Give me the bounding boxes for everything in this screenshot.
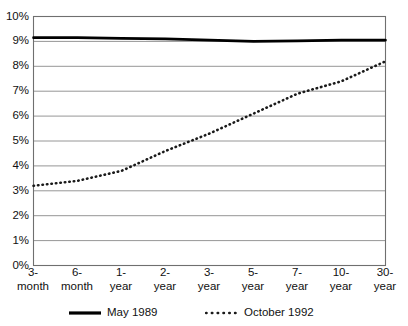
series-line-october-1992 — [34, 61, 386, 186]
x-axis-tick-label: 6- month — [61, 266, 93, 293]
x-axis-tick-label: 30- year — [374, 266, 396, 293]
legend-label-october-1992: October 1992 — [244, 306, 314, 319]
legend-item-may-1989: May 1989 — [68, 306, 158, 319]
x-axis-tick-label: 1- year — [110, 266, 132, 293]
chart-legend: May 1989 October 1992 — [0, 303, 408, 326]
x-axis-tick-label: 2- year — [154, 266, 176, 293]
legend-item-october-1992: October 1992 — [205, 306, 314, 319]
data-series-group — [34, 38, 386, 186]
x-axis: 3- month6- month1- year2- year3- year5- … — [33, 266, 385, 300]
gridlines — [34, 41, 386, 265]
x-axis-tick-label: 10- year — [330, 266, 352, 293]
solid-line-swatch-icon — [68, 308, 102, 318]
x-axis-tick-label: 7- year — [286, 266, 308, 293]
x-axis-tick-label: 3- year — [198, 266, 220, 293]
dotted-line-swatch-icon — [205, 308, 239, 318]
yield-curve-chart: 10%9%8%7%6%5%4%3%2%1%0% 3- month6- month… — [0, 0, 408, 326]
legend-label-may-1989: May 1989 — [107, 306, 158, 319]
x-axis-tick-label: 3- month — [17, 266, 49, 293]
series-line-may-1989 — [34, 38, 386, 42]
x-axis-tick-label: 5- year — [242, 266, 264, 293]
